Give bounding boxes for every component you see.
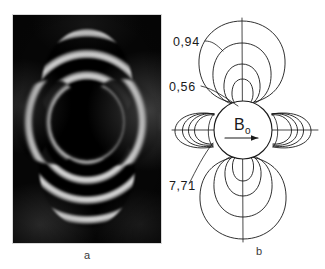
contour-right-closing [272, 114, 278, 147]
panel-b-diagram: 0,94 0,56 7,71 B o [166, 10, 325, 250]
contour-label-771: 7,71 [169, 179, 196, 193]
contour-left-4 [194, 115, 214, 144]
leader-line-771 [189, 143, 213, 184]
photo-background [13, 15, 161, 243]
photo-central-sphere [50, 83, 124, 161]
field-label-subscript: o [245, 125, 251, 136]
panel-b-caption: b [256, 245, 263, 257]
contour-label-056: 0,56 [169, 80, 196, 94]
contour-diagram-svg: 0,94 0,56 7,71 B o [166, 10, 325, 250]
field-label-b: B [234, 116, 245, 133]
panel-a-photograph [13, 15, 161, 243]
figure-root: a [0, 0, 325, 269]
contour-right-4 [272, 115, 292, 144]
contour-left-closing [208, 114, 214, 147]
panel-a-caption: a [84, 249, 91, 261]
leader-line-094 [205, 41, 223, 51]
contour-label-094: 0,94 [173, 35, 200, 49]
